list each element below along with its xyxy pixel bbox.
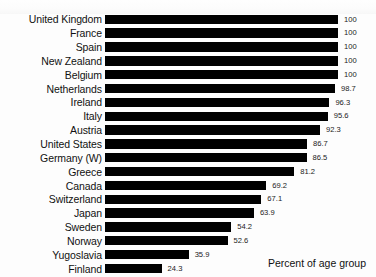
bar-value-label: 63.9 <box>260 208 275 218</box>
bar-track: 100 <box>102 13 376 27</box>
bar-value-label: 24.3 <box>168 264 183 274</box>
category-label: Japan <box>0 208 102 219</box>
bar-value-label: 100 <box>344 28 357 38</box>
bar-row: Canada69.2 <box>0 179 376 193</box>
bar-row: Germany (W)86.5 <box>0 151 376 165</box>
bar-value-label: 69.2 <box>272 181 287 191</box>
bar-value-label: 95.6 <box>334 111 349 121</box>
bar-value-label: 86.7 <box>313 139 328 149</box>
category-label: Norway <box>0 236 102 247</box>
bar-value-label: 81.2 <box>300 167 315 177</box>
bar-track: 96.3 <box>102 96 376 110</box>
bar-track: 100 <box>102 27 376 41</box>
bar-row: Spain100 <box>0 41 376 55</box>
scan-noise-band <box>0 0 376 14</box>
bar-row: United Kingdom100 <box>0 13 376 27</box>
bar-value-label: 92.3 <box>326 125 341 135</box>
bar-value-label: 54.2 <box>237 222 252 232</box>
bar-value-label: 35.9 <box>195 250 210 260</box>
category-label: Netherlands <box>0 84 102 95</box>
category-label: Switzerland <box>0 194 102 205</box>
bar-value-label: 96.3 <box>335 98 350 108</box>
category-label: Spain <box>0 42 102 53</box>
bar <box>105 112 328 121</box>
category-label: New Zealand <box>0 56 102 67</box>
bar-track: 98.7 <box>102 82 376 96</box>
category-label: Sweden <box>0 222 102 233</box>
bar <box>105 84 335 93</box>
bar-track: 54.2 <box>102 221 376 235</box>
category-label: Germany (W) <box>0 153 102 164</box>
bar-row: Italy95.6 <box>0 110 376 124</box>
bar-value-label: 100 <box>344 42 357 52</box>
bar-track: 63.9 <box>102 207 376 221</box>
bar-row: Austria92.3 <box>0 124 376 138</box>
x-axis-caption: Percent of age group <box>268 257 366 269</box>
chart-rows: United Kingdom100France100Spain100New Ze… <box>0 13 376 276</box>
bar <box>105 125 320 134</box>
bar-row: Belgium100 <box>0 68 376 82</box>
bar <box>105 236 228 245</box>
bar-row: Switzerland67.1 <box>0 193 376 207</box>
bar-row: Sweden54.2 <box>0 221 376 235</box>
bar-row: Norway52.6 <box>0 235 376 249</box>
bar <box>105 167 294 176</box>
bar-track: 100 <box>102 68 376 82</box>
bar-track: 81.2 <box>102 165 376 179</box>
bar <box>105 70 338 79</box>
bar-track: 92.3 <box>102 124 376 138</box>
bar-value-label: 98.7 <box>341 84 356 94</box>
bar-row: United States86.7 <box>0 138 376 152</box>
bar <box>105 42 338 51</box>
bar-chart: United Kingdom100France100Spain100New Ze… <box>0 0 376 277</box>
bar <box>105 28 338 37</box>
bar-row: France100 <box>0 27 376 41</box>
bar-value-label: 100 <box>344 70 357 80</box>
bar-row: New Zealand100 <box>0 55 376 69</box>
category-label: Ireland <box>0 97 102 108</box>
bar-track: 67.1 <box>102 193 376 207</box>
bar-track: 100 <box>102 41 376 55</box>
category-label: Yugoslavia <box>0 250 102 261</box>
bar <box>105 250 189 259</box>
bar-row: Greece81.2 <box>0 165 376 179</box>
category-label: Belgium <box>0 70 102 81</box>
bar <box>105 222 231 231</box>
bar <box>105 139 307 148</box>
bar <box>105 208 254 217</box>
bar-track: 52.6 <box>102 235 376 249</box>
category-label: Austria <box>0 125 102 136</box>
bar-value-label: 52.6 <box>234 236 249 246</box>
bar-value-label: 100 <box>344 15 357 25</box>
bar <box>105 264 162 273</box>
bar-track: 95.6 <box>102 110 376 124</box>
bar <box>105 98 329 107</box>
bar-value-label: 100 <box>344 56 357 66</box>
category-label: Italy <box>0 111 102 122</box>
bar-track: 86.5 <box>102 151 376 165</box>
bar-value-label: 67.1 <box>267 194 282 204</box>
category-label: Canada <box>0 181 102 192</box>
bar-track: 69.2 <box>102 179 376 193</box>
bar-row: Netherlands98.7 <box>0 82 376 96</box>
category-label: United States <box>0 139 102 150</box>
category-label: United Kingdom <box>0 14 102 25</box>
category-label: Finland <box>0 264 102 275</box>
bar <box>105 56 338 65</box>
category-label: France <box>0 28 102 39</box>
bar-value-label: 86.5 <box>313 153 328 163</box>
bar-track: 86.7 <box>102 138 376 152</box>
bar <box>105 181 266 190</box>
bar-row: Ireland96.3 <box>0 96 376 110</box>
bar <box>105 15 338 24</box>
bar <box>105 195 261 204</box>
bar-track: 100 <box>102 55 376 69</box>
category-label: Greece <box>0 167 102 178</box>
bar-row: Japan63.9 <box>0 207 376 221</box>
bar <box>105 153 307 162</box>
